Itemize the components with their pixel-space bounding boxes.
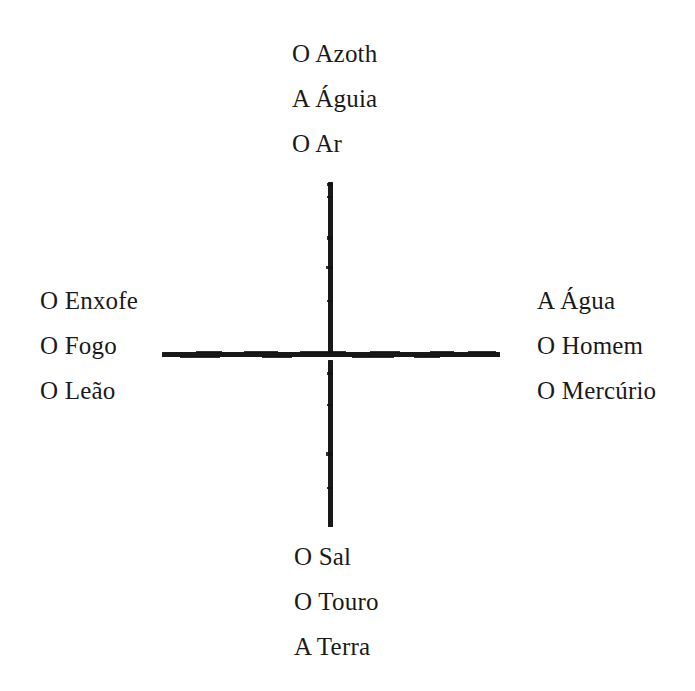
label-top-2: A Águia	[292, 76, 377, 121]
ink-texture-mark	[327, 404, 333, 406]
ink-texture-mark	[196, 351, 222, 353]
ink-texture-mark	[300, 351, 346, 353]
label-bottom-1: O Sal	[294, 534, 379, 579]
ink-texture-mark	[180, 356, 220, 358]
ink-texture-mark	[327, 372, 333, 375]
diagram-page: O Azoth A Águia O Ar O Enxofe O Fogo O L…	[0, 0, 695, 691]
label-group-top: O Azoth A Águia O Ar	[292, 31, 377, 166]
cross-arm-horizontal	[162, 352, 500, 357]
ink-texture-mark	[327, 196, 333, 198]
label-top-1: O Azoth	[292, 31, 377, 76]
label-group-right: A Água O Homem O Mercúrio	[537, 278, 656, 413]
ink-texture-mark	[430, 351, 454, 353]
ink-texture-mark	[370, 351, 400, 353]
ink-texture-mark	[352, 356, 394, 358]
label-group-bottom: O Sal O Touro A Terra	[294, 534, 379, 669]
cross-arm-vertical-upper	[328, 182, 333, 352]
label-left-1: O Enxofe	[40, 278, 138, 323]
ink-texture-mark	[414, 356, 440, 358]
cross-arm-vertical-lower	[328, 360, 333, 527]
label-left-3: O Leão	[40, 368, 138, 413]
ink-texture-mark	[327, 236, 333, 240]
ink-texture-mark	[326, 452, 333, 456]
label-top-3: O Ar	[292, 121, 377, 166]
ink-texture-mark	[327, 300, 333, 302]
label-group-left: O Enxofe O Fogo O Leão	[40, 278, 138, 413]
ink-texture-mark	[244, 351, 278, 353]
label-bottom-3: A Terra	[294, 624, 379, 669]
label-right-1: A Água	[537, 278, 656, 323]
label-right-3: O Mercúrio	[537, 368, 656, 413]
ink-texture-mark	[327, 183, 333, 186]
ink-texture-mark	[326, 266, 333, 269]
ink-texture-mark	[262, 356, 292, 358]
label-left-2: O Fogo	[40, 323, 138, 368]
label-right-2: O Homem	[537, 323, 656, 368]
ink-texture-mark	[327, 487, 333, 489]
ink-texture-mark	[468, 351, 496, 353]
label-bottom-2: O Touro	[294, 579, 379, 624]
